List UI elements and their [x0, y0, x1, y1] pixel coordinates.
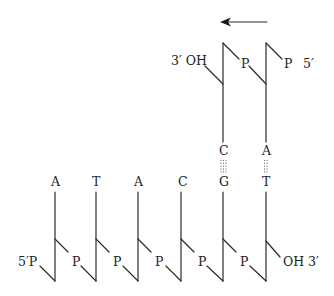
bottom-5prime-p-label: 5′P: [18, 254, 37, 269]
hydrogen-bonds-cg: [221, 160, 226, 173]
synthesis-direction-arrow: [220, 18, 267, 27]
top-strand: 3′ OH P P 5′ C A: [171, 43, 314, 158]
top-base-label: C: [219, 143, 229, 158]
bottom-phosphate-label: P: [72, 254, 80, 269]
bottom-base-label: C: [178, 174, 188, 189]
bottom-phosphate-label: P: [155, 254, 163, 269]
top-5prime-label: 5′: [303, 56, 314, 71]
top-base-label: A: [261, 143, 272, 158]
top-3prime-oh-label: 3′ OH: [171, 53, 207, 68]
bottom-strand: A T A C G T 5′P P P P P P: [18, 174, 319, 281]
bottom-3prime-oh-label: OH 3′: [283, 254, 319, 269]
bottom-base-label: A: [133, 174, 144, 189]
bottom-base-label: G: [219, 174, 229, 189]
bottom-phosphate-label: P: [198, 254, 206, 269]
hydrogen-bonds-at: [265, 160, 268, 173]
bottom-base-label: T: [262, 174, 271, 189]
bottom-phosphate-label: P: [113, 254, 121, 269]
top-phosphate-label: P: [284, 56, 292, 71]
dna-diagram: 3′ OH P P 5′ C A A T A C G T: [0, 0, 334, 296]
bottom-base-label: A: [50, 174, 61, 189]
bottom-phosphate-label: P: [240, 254, 248, 269]
top-phosphate-label: P: [241, 56, 249, 71]
bottom-base-label: T: [92, 174, 101, 189]
